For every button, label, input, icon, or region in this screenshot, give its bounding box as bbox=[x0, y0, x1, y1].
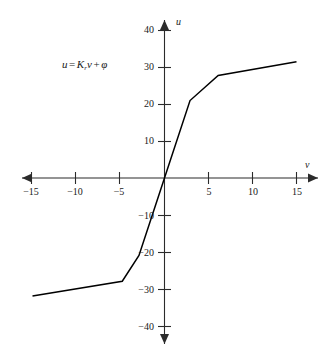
plot-area bbox=[0, 0, 332, 360]
y-tick-label--30: −30 bbox=[138, 285, 154, 295]
x-tick-label--5: −5 bbox=[114, 187, 125, 197]
x-axis-right-arrow-icon bbox=[308, 173, 318, 182]
equation-offset: φ bbox=[101, 58, 107, 70]
equation-lhs: u bbox=[62, 58, 68, 70]
x-axis-left-arrow-icon bbox=[22, 173, 32, 182]
y-axis bbox=[158, 20, 171, 344]
x-tick-label-10: 10 bbox=[248, 187, 258, 197]
y-tick-label-40: 40 bbox=[144, 25, 154, 35]
equation-equals: = bbox=[68, 58, 77, 70]
y-tick-label--20: −20 bbox=[138, 248, 154, 258]
y-tick-label-30: 30 bbox=[144, 62, 154, 72]
y-axis-down-arrow-icon bbox=[160, 334, 169, 344]
y-axis-up-arrow-icon bbox=[160, 20, 169, 30]
x-axis bbox=[22, 172, 318, 184]
x-tick-label--10: −10 bbox=[67, 187, 83, 197]
y-tick-label-10: 10 bbox=[144, 136, 154, 146]
x-axis-label-v: v bbox=[305, 160, 309, 170]
x-tick-label--15: −15 bbox=[23, 187, 39, 197]
x-tick-label-5: 5 bbox=[207, 187, 212, 197]
chart-figure: −15 −10 −5 5 10 15 40 30 20 10 −10 −20 −… bbox=[0, 0, 332, 360]
equation-annotation: u=Krv+φ bbox=[62, 59, 107, 72]
y-tick-label-20: 20 bbox=[144, 99, 154, 109]
equation-plus: + bbox=[92, 58, 101, 70]
equation-gain: K bbox=[77, 58, 84, 70]
y-axis-label-u: u bbox=[176, 17, 181, 27]
x-tick-label-15: 15 bbox=[292, 187, 302, 197]
y-tick-label--10: −10 bbox=[138, 211, 154, 221]
y-tick-label--40: −40 bbox=[138, 322, 154, 332]
